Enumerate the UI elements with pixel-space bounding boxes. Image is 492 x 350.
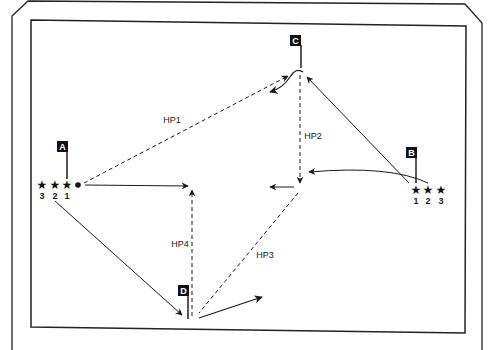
run-c-curve [270,70,303,92]
pass-label-hp1: HP1 [163,115,181,125]
star-icon: ★ [436,183,447,197]
pass-hp1 [84,76,288,183]
star-icon: ★ [37,178,48,192]
star-icon: ★ [50,178,61,192]
flag-a: A [57,141,68,179]
player-number: 3 [438,196,443,206]
flag-label-c: C [292,36,299,46]
player-group-b: ★ ★ ★ 1 2 3 [411,183,447,206]
run-a-to-d [55,201,182,315]
star-icon: ★ [62,178,73,192]
run-d-forward [199,297,262,318]
pass-label-hp3: HP3 [256,250,274,260]
ball-icon [75,182,81,188]
run-a-forward [85,185,188,186]
run-b-curve [309,170,428,183]
flag-label-a: A [59,142,66,152]
flag-label-d: D [180,286,187,296]
player-number: 2 [52,191,57,201]
star-icon: ★ [411,183,422,197]
player-number: 3 [39,191,44,201]
run-b-to-c [307,77,409,183]
pitch-box [31,20,466,333]
pass-label-hp2: HP2 [304,131,322,141]
player-group-a: ★ ★ ★ 3 2 1 [37,178,81,201]
flag-label-b: B [408,148,415,158]
star-icon: ★ [423,183,434,197]
drill-diagram: A B C D ★ ★ ★ 3 2 1 ★ ★ ★ 1 2 3 [0,0,492,350]
outer-frame [12,1,482,350]
flag-d: D [178,285,189,319]
player-number: 1 [64,191,69,201]
pass-hp3 [199,193,298,313]
flag-c: C [290,35,301,68]
pass-label-hp4: HP4 [171,239,189,249]
player-number: 2 [425,196,430,206]
player-number: 1 [413,196,418,206]
